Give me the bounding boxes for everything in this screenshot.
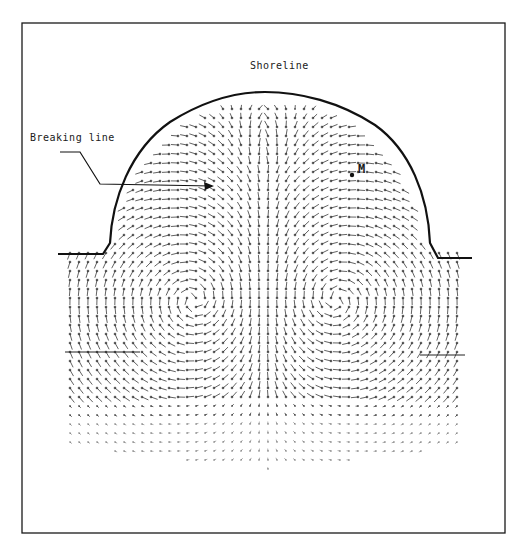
- shoreline-curve: [58, 92, 472, 258]
- shoreline-label: Shoreline: [250, 60, 309, 71]
- breaking-line-label: Breaking line: [30, 132, 115, 143]
- figure-frame: [22, 23, 505, 533]
- point-m-marker: [350, 173, 354, 177]
- velocity-vectors: [68, 105, 460, 470]
- vector-field-figure: [0, 0, 511, 551]
- point-m-label: M: [358, 162, 366, 176]
